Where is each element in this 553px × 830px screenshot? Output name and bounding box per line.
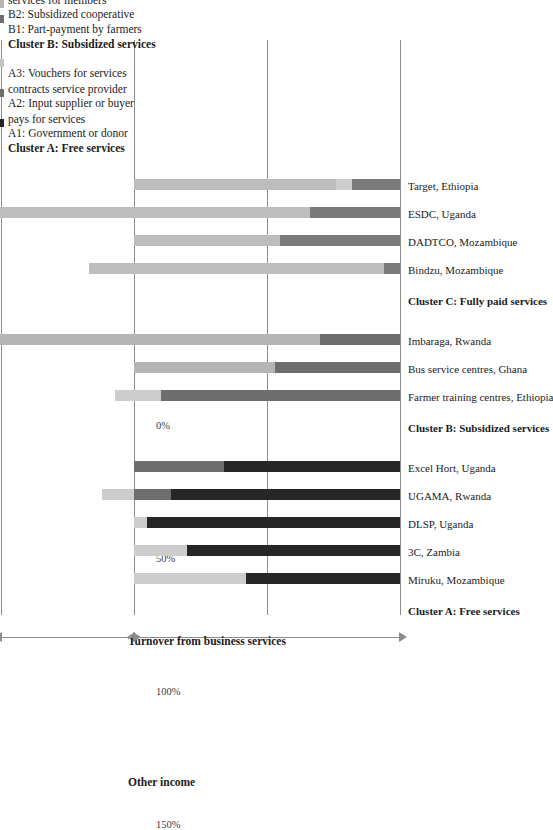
cluster-header-label: Cluster A: Free services [408,605,520,617]
bar [102,489,400,500]
legend-swatch [0,119,4,127]
bar [134,517,400,528]
bar [134,362,400,373]
bar-segment-A2 [134,461,224,472]
legend-item-label: A1: Government or donor [8,127,128,141]
y-tick-label: 150% [156,819,181,830]
category-label: 3C, Zambia [408,546,460,558]
chart-legend: Cluster A: Free servicesA1: Government o… [0,0,436,150]
legend-group-title: Cluster B: Subsidized services [8,38,156,50]
bar-segment-A1 [147,517,400,528]
bar [89,263,400,274]
bar-segment-C1 [352,179,400,190]
legend-swatch [0,89,4,97]
bar [0,207,400,218]
bar-segment-OI [134,573,246,584]
category-label: Bindzu, Mozambique [408,264,503,276]
bar-segment-OI [134,517,147,528]
bar [134,461,400,472]
legend-item-label: services for members [8,0,106,8]
y-tick-label: 0% [156,420,170,431]
category-label: Farmer training centres, Ethiopia [408,391,553,403]
bar-segment-OI [102,489,134,500]
legend-item-label: B2: Subsidized cooperative [8,8,134,22]
axis-span-rule [1,637,134,638]
axis-span-label: Turnover from business services [128,635,286,647]
category-label: Excel Hort, Uganda [408,462,496,474]
bar-segment-C2 [89,263,384,274]
bar [115,390,400,401]
bar-segment-OI [336,179,352,190]
bar-segment-B1 [161,390,400,401]
bar-segment-B1 [320,334,400,345]
bar-segment-B2 [0,334,320,345]
category-label: DLSP, Uganda [408,518,473,530]
axis-span-label: Other income [128,776,195,788]
legend-item-label: pays for services [8,113,85,127]
legend-item-label: A2: Input supplier or buyer [8,97,134,111]
category-label: DADTCO, Mozambique [408,236,517,248]
bar-segment-C1 [310,207,400,218]
bar [134,235,400,246]
category-label: Imbaraga, Rwanda [408,335,491,347]
bar-segment-A1 [171,489,400,500]
legend-item-label: B1: Part-payment by farmers [8,23,142,37]
legend-swatch [0,59,4,67]
category-label: Target, Ethiopia [408,180,479,192]
bar [134,179,400,190]
axis-span-arrow-top [0,632,2,642]
y-tick-label: 100% [156,686,181,697]
bar-segment-A2 [134,489,171,500]
bar-segment-OI [115,390,160,401]
bar-segment-C2 [134,179,336,190]
bar-segment-B2 [134,362,275,373]
bar-segment-A1 [187,545,400,556]
bar-segment-A1 [224,461,400,472]
bar-segment-OI [134,545,187,556]
bar-segment-A1 [246,573,400,584]
legend-item-label: contracts service provider [8,83,127,97]
cluster-header-label: Cluster B: Subsidized services [408,422,549,434]
bar [134,573,400,584]
legend-group-title: Cluster A: Free services [8,142,125,154]
legend-swatch [0,0,4,8]
category-label: Bus service centres, Ghana [408,363,527,375]
bar-segment-C1 [384,263,400,274]
bar [0,334,400,345]
legend-item-label: A3: Vouchers for services [8,67,127,81]
axis-span-arrow-bottom [399,632,407,642]
axis-span-arrow-bottom [133,632,141,642]
category-label: Miruku, Mozambique [408,574,505,586]
category-label: ESDC, Uganda [408,208,476,220]
bar-segment-C2 [0,207,310,218]
bar-segment-B1 [275,362,400,373]
legend-swatch [0,15,4,23]
category-label: UGAMA, Rwanda [408,490,491,502]
bar-segment-C1 [280,235,400,246]
bar [134,545,400,556]
cluster-header-label: Cluster C: Fully paid services [408,295,547,307]
bar-segment-C2 [134,235,280,246]
